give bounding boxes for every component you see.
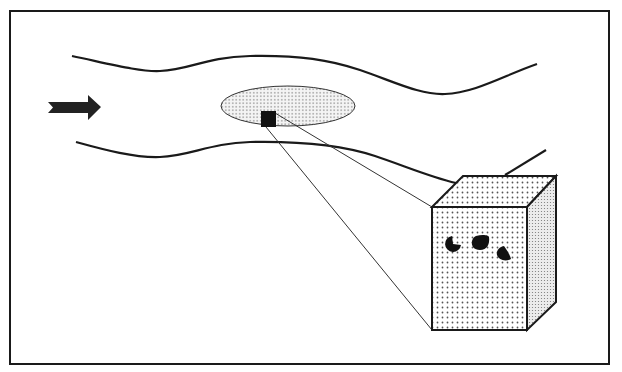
cube-front-face: [432, 207, 527, 330]
diagram-canvas: [0, 0, 622, 372]
sample-square: [261, 111, 276, 127]
region-ellipse: [221, 86, 355, 126]
volume-cube: [432, 176, 556, 330]
